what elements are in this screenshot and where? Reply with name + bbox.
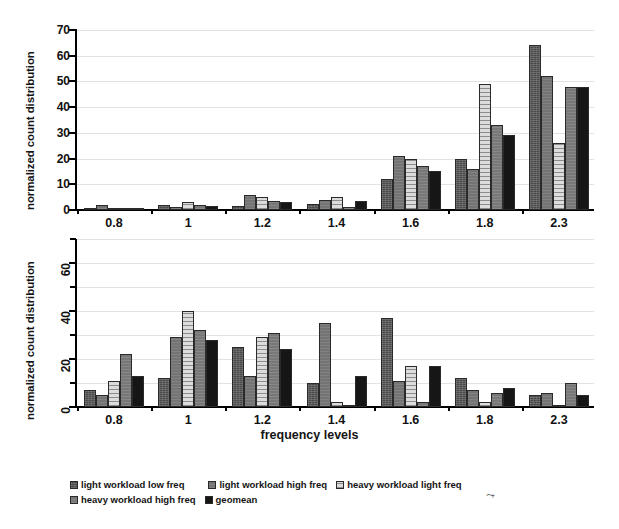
bar: [206, 206, 218, 210]
bar: [529, 395, 541, 407]
bar: [120, 208, 132, 210]
bar: [503, 388, 515, 407]
bar: [232, 347, 244, 407]
x-axis-tick: [151, 209, 153, 214]
bar: [206, 340, 218, 407]
bar: [503, 135, 515, 210]
y-axis-tick: [70, 286, 76, 288]
y-axis-tick-label: 20: [60, 359, 72, 372]
bar: [405, 366, 417, 407]
bar: [467, 390, 479, 407]
legend-swatch-light-workload-high-freq: [208, 481, 216, 489]
x-axis-tick: [522, 406, 524, 411]
bar: [244, 195, 256, 210]
bar: [355, 376, 367, 407]
bar: [232, 206, 244, 210]
bar: [158, 205, 170, 210]
x-axis-tick-label: 0.8: [105, 413, 122, 427]
bar: [194, 205, 206, 210]
x-axis-tick: [448, 406, 450, 411]
bar: [108, 208, 120, 210]
gridline: [75, 335, 594, 336]
bar: [182, 311, 194, 407]
y-axis-tick-label: 60: [57, 50, 70, 62]
bar: [280, 349, 292, 407]
legend-label-light-workload-low-freq: light workload low freq: [81, 479, 184, 490]
bar: [132, 376, 144, 407]
bar: [393, 381, 405, 407]
legend-item-heavy-workload-light-freq[interactable]: heavy workload light freq: [336, 479, 462, 490]
bar: [405, 159, 417, 210]
y-axis-tick-label: 40: [60, 311, 72, 324]
bar: [331, 402, 343, 407]
bar: [194, 330, 206, 407]
bar: [170, 207, 182, 210]
y-axis-tick-label: 40: [57, 101, 70, 113]
bar: [170, 337, 182, 407]
legend-label-heavy-workload-light-freq: heavy workload light freq: [347, 479, 462, 490]
legend-label-heavy-workload-high-freq: heavy workload high freq: [81, 494, 196, 505]
x-axis-tick: [448, 209, 450, 214]
bar: [343, 405, 355, 407]
gridline: [75, 56, 594, 57]
x-axis-tick: [374, 406, 376, 411]
legend-item-geomean[interactable]: geomean: [205, 494, 258, 505]
bar: [491, 393, 503, 407]
bar: [491, 125, 503, 210]
y-axis-tick-label: 60: [60, 263, 72, 276]
chart-panel-bottom: normalized count distribution 02040600.8…: [0, 225, 619, 420]
gridline: [75, 133, 594, 134]
bar: [343, 207, 355, 210]
bar: [381, 179, 393, 210]
bar: [355, 201, 367, 210]
bar: [393, 156, 405, 210]
bar: [132, 208, 144, 210]
gridline: [75, 263, 594, 264]
y-axis-label-bottom: normalized count distribution: [24, 235, 36, 420]
x-axis-tick: [299, 209, 301, 214]
y-axis-tick-label: 0: [60, 407, 72, 414]
bar: [455, 159, 467, 210]
bar: [319, 200, 331, 210]
chart-panel-top: normalized count distribution 0102030405…: [0, 0, 619, 225]
chart-legend: light workload low freq light workload h…: [70, 477, 590, 507]
x-axis-tick: [77, 406, 79, 411]
x-axis-tick: [374, 209, 376, 214]
x-axis-tick: [225, 406, 227, 411]
bar: [331, 197, 343, 210]
y-axis-tick: [69, 29, 77, 31]
bar: [84, 390, 96, 407]
bar: [268, 333, 280, 407]
x-axis-tick-label: 1.2: [254, 413, 271, 427]
figure-container: normalized count distribution 0102030405…: [0, 0, 619, 529]
y-axis-tick-label: 10: [57, 178, 70, 190]
x-axis-tick: [225, 209, 227, 214]
y-axis-tick: [69, 183, 77, 185]
x-axis-tick-label: 1.6: [402, 413, 419, 427]
gridline: [75, 311, 594, 312]
y-axis-tick: [69, 106, 77, 108]
bar: [307, 204, 319, 210]
bar: [268, 201, 280, 210]
legend-item-light-workload-low-freq[interactable]: light workload low freq: [70, 479, 184, 490]
bar: [479, 402, 491, 407]
bar: [256, 337, 268, 407]
stray-scan-mark: ⤳: [486, 492, 502, 499]
y-axis-tick: [70, 238, 76, 240]
bar: [455, 378, 467, 407]
y-axis-tick-label: 30: [57, 127, 70, 139]
bar: [108, 381, 120, 407]
legend-item-heavy-workload-high-freq[interactable]: heavy workload high freq: [70, 494, 196, 505]
x-axis-tick-label: 1: [185, 413, 192, 427]
bar: [182, 202, 194, 210]
y-axis-tick-label: 0: [63, 204, 70, 216]
legend-item-light-workload-high-freq[interactable]: light workload high freq: [208, 479, 327, 490]
bar: [529, 45, 541, 210]
y-axis-tick: [69, 55, 77, 57]
gridline: [75, 383, 594, 384]
bar: [429, 171, 441, 210]
bar: [565, 383, 577, 407]
x-axis-tick: [151, 406, 153, 411]
bar: [553, 143, 565, 210]
gridline: [75, 287, 594, 288]
